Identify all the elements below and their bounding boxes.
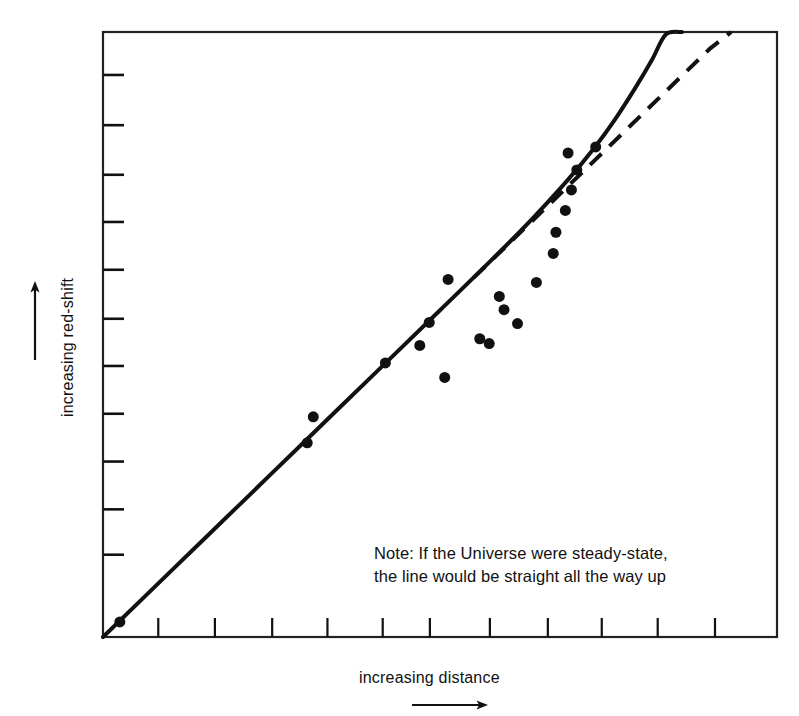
data-point-14: [550, 227, 561, 238]
chart-canvas: Note: If the Universe were steady-state,…: [0, 0, 799, 716]
data-point-10: [494, 291, 505, 302]
data-point-5: [414, 340, 425, 351]
data-point-9: [484, 338, 495, 349]
data-point-19: [590, 141, 601, 152]
data-point-17: [571, 164, 582, 175]
data-point-11: [499, 304, 510, 315]
x-axis-label: increasing distance: [359, 669, 500, 686]
data-point-13: [531, 277, 542, 288]
data-point-1: [302, 437, 313, 448]
data-point-18: [563, 148, 574, 159]
figure-background: [0, 0, 799, 716]
data-point-15: [560, 205, 571, 216]
data-point-7: [443, 274, 454, 285]
hubble-diagram-figure: Note: If the Universe were steady-state,…: [0, 0, 799, 716]
data-point-16: [566, 184, 577, 195]
data-point-2: [308, 411, 319, 422]
data-point-0: [114, 616, 125, 627]
data-point-3: [380, 357, 391, 368]
data-point-6: [439, 372, 450, 383]
note-line-2: the line would be straight all the way u…: [374, 567, 666, 585]
note-line-1: Note: If the Universe were steady-state,: [374, 544, 668, 562]
data-point-20: [548, 248, 559, 259]
data-point-8: [474, 333, 485, 344]
data-point-12: [512, 318, 523, 329]
y-axis-label: increasing red-shift: [59, 277, 76, 417]
data-point-4: [424, 317, 435, 328]
